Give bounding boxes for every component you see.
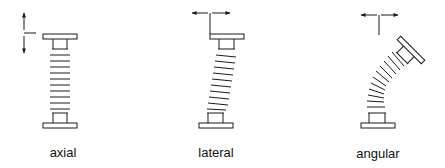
corrugations: [367, 52, 404, 107]
vertical-double-arrow-icon: [24, 13, 36, 53]
corrugations: [207, 55, 236, 110]
angular-bellows: [361, 15, 425, 128]
lateral-label: lateral: [198, 145, 233, 160]
bellows-diagram: [0, 0, 445, 168]
axial-bellows: [24, 13, 77, 128]
corrugations: [50, 55, 70, 109]
axial-label: axial: [50, 145, 77, 160]
angular-label: angular: [356, 146, 399, 161]
horizontal-double-arrow-icon: [192, 13, 230, 34]
horizontal-double-arrow-icon: [361, 15, 398, 35]
lateral-bellows: [192, 13, 244, 128]
